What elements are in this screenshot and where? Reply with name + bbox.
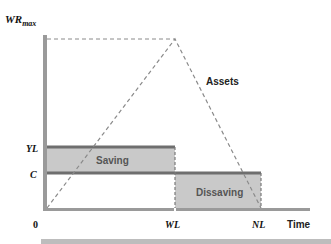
yl-label: YL <box>26 143 38 154</box>
x-axis-gap-wl <box>174 208 176 211</box>
origin-label: 0 <box>33 219 38 230</box>
x-axis <box>43 208 310 211</box>
footer-bar <box>41 239 331 244</box>
saving-label: Saving <box>96 155 129 166</box>
dissaving-label: Dissaving <box>196 187 243 198</box>
time-label: Time <box>287 219 311 230</box>
wr-max-label: WRmax <box>5 13 36 28</box>
assets-label: Assets <box>206 76 239 87</box>
chart: WRmax YL C 0 WL NL Time Assets Saving Di… <box>0 0 331 244</box>
y-axis <box>43 35 47 211</box>
c-label: C <box>30 169 37 180</box>
nl-label: NL <box>251 219 265 230</box>
wl-label: WL <box>165 219 180 230</box>
